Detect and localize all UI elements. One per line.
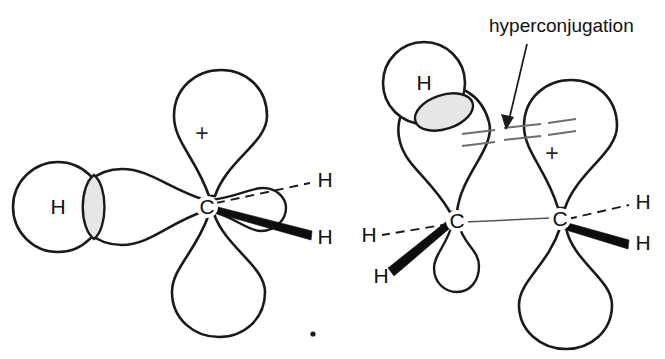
right-hydrogen-sphere-label: H	[416, 71, 431, 94]
right-c-wedge-bond	[566, 223, 629, 249]
carbon-carbon-bond	[465, 218, 550, 222]
left-top-lobe	[174, 70, 267, 196]
left-overlap-lens	[83, 175, 105, 239]
right-c-dashed-bond	[568, 205, 629, 219]
left-hydrogen-sphere-label: H	[50, 195, 65, 218]
right-c-bottom-lobe	[519, 228, 612, 349]
left-dashed-hydrogen-label: H	[317, 168, 332, 191]
left-c-label: C	[449, 209, 464, 232]
left-carbon-label: C	[199, 195, 214, 218]
left-bottom-lobe	[172, 214, 265, 337]
figure-root: C H + H H	[0, 0, 665, 359]
ink-speck-artifact	[310, 331, 315, 336]
right-c-wedge-hydrogen-label: H	[635, 231, 650, 254]
left-structure-group: C H + H H	[13, 70, 333, 337]
left-wedge-hydrogen-label: H	[317, 225, 332, 248]
left-positive-charge: +	[195, 120, 208, 146]
right-positive-charge: +	[545, 140, 558, 166]
right-structure-group: C C H + H H H H	[361, 42, 650, 349]
callout-label: hyperconjugation	[489, 15, 634, 36]
callout-pointer-line	[509, 44, 527, 120]
left-c-wedge-hydrogen-label: H	[373, 264, 388, 287]
orbital-diagram-svg: C H + H H	[0, 0, 665, 359]
left-c-dashed-hydrogen-label: H	[361, 223, 376, 246]
right-c-label: C	[552, 207, 567, 230]
right-c-top-lobe	[524, 80, 617, 208]
right-c-dashed-hydrogen-label: H	[635, 190, 650, 213]
